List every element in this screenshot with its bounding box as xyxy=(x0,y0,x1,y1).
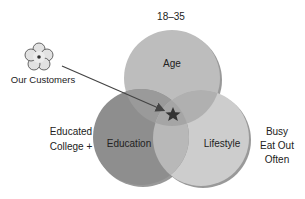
label-lifestyle: Lifestyle xyxy=(204,138,241,149)
outer-label-education-2: College + xyxy=(50,141,93,152)
outer-label-lifestyle-2: Eat Out xyxy=(260,140,294,151)
outer-label-lifestyle-1: Busy xyxy=(266,126,288,137)
outer-label-age: 18–35 xyxy=(157,11,185,22)
outer-label-education-1: Educated xyxy=(50,126,92,137)
callout-label: Our Customers xyxy=(11,74,76,85)
venn-diagram: Age Education Lifestyle 18–35 Educated C… xyxy=(0,0,305,199)
label-education: Education xyxy=(107,138,151,149)
outer-label-lifestyle-3: Often xyxy=(265,154,289,165)
flower-icon xyxy=(25,43,53,70)
label-age: Age xyxy=(163,58,181,69)
